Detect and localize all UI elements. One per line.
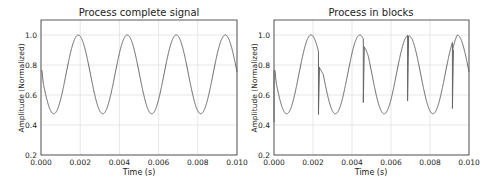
x-tick-label: 0.010 [458, 158, 480, 167]
signal-line [41, 35, 237, 114]
y-axis-label: Amplitude (Normalized) [17, 43, 26, 132]
y-tick-label: 0.6 [25, 91, 37, 100]
x-tick-label: 0.002 [69, 158, 91, 167]
x-tick-label: 0.006 [380, 158, 402, 167]
plot-frame [41, 20, 237, 155]
signal-line [274, 35, 469, 122]
y-ticks: 0.20.40.60.81.0 [25, 31, 37, 160]
x-ticks: 0.0000.0020.0040.0060.0080.010 [263, 158, 480, 167]
chart-complete-signal: Process complete signal 0.20.40.60.81.0 … [0, 0, 249, 181]
grid [41, 20, 237, 155]
y-tick-label: 1.0 [25, 31, 37, 40]
chart-process-in-blocks: Process in blocks 0.20.40.60.81.0 0.0000… [249, 0, 498, 181]
y-tick-label: 0.8 [258, 61, 270, 70]
y-axis-label: Amplitude (Normalized) [250, 43, 259, 132]
x-ticks: 0.0000.0020.0040.0060.0080.010 [30, 158, 248, 167]
plot-frame [274, 20, 469, 155]
chart-title: Process complete signal [79, 7, 200, 18]
x-tick-label: 0.000 [263, 158, 285, 167]
x-axis-label: Time (s) [354, 168, 388, 177]
x-axis-label: Time (s) [122, 168, 156, 177]
x-tick-label: 0.010 [226, 158, 248, 167]
y-tick-label: 0.4 [25, 121, 37, 130]
grid [274, 20, 469, 155]
y-tick-label: 1.0 [258, 31, 270, 40]
x-tick-label: 0.002 [302, 158, 324, 167]
y-tick-label: 0.8 [25, 61, 37, 70]
x-tick-label: 0.006 [148, 158, 170, 167]
x-tick-label: 0.008 [187, 158, 209, 167]
y-tick-label: 0.6 [258, 91, 270, 100]
y-tick-label: 0.4 [258, 121, 270, 130]
x-tick-label: 0.004 [341, 158, 363, 167]
chart-title: Process in blocks [328, 7, 413, 18]
y-ticks: 0.20.40.60.81.0 [258, 31, 270, 160]
x-tick-label: 0.008 [419, 158, 441, 167]
x-tick-label: 0.000 [30, 158, 52, 167]
x-tick-label: 0.004 [109, 158, 131, 167]
